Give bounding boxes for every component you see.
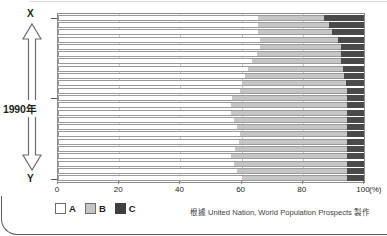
x-axis-tick-mark	[179, 181, 180, 184]
bar-segment-a	[58, 139, 239, 145]
bar-segment-c	[347, 153, 364, 159]
bar-segment-a	[58, 22, 258, 28]
bar-segment-c	[347, 161, 364, 167]
bar-segment-b	[231, 110, 347, 116]
bar-segment-a	[58, 80, 242, 86]
bar-row	[58, 58, 364, 64]
bar-segment-b	[257, 51, 341, 57]
bar-segment-a	[58, 15, 258, 21]
bar-segment-c	[347, 175, 364, 181]
bar-row	[58, 66, 364, 72]
axis-top-label: X	[27, 8, 34, 19]
bar-row	[58, 131, 364, 137]
bar-segment-a	[58, 146, 235, 152]
stacked-bar-chart-plot-area	[57, 13, 365, 183]
bar-segment-c	[332, 29, 364, 35]
bar-row	[58, 161, 364, 167]
x-axis-tick-label: 20	[114, 185, 123, 194]
bar-segment-c	[347, 88, 364, 94]
bar-row	[58, 51, 364, 57]
bar-row	[58, 95, 364, 101]
bar-segment-b	[258, 22, 328, 28]
bar-segment-c	[347, 124, 364, 130]
bar-segment-a	[58, 95, 232, 101]
axis-bottom-label: Y	[27, 173, 34, 184]
bar-segment-b	[242, 175, 348, 181]
bar-segment-b	[258, 15, 324, 21]
bar-segment-a	[58, 175, 242, 181]
bar-segment-b	[260, 44, 341, 50]
bar-segment-c	[347, 131, 364, 137]
bar-rows	[58, 14, 364, 182]
bar-segment-b	[234, 117, 347, 123]
x-axis-tick-mark	[241, 181, 242, 184]
bar-segment-c	[347, 95, 364, 101]
bar-segment-c	[346, 80, 364, 86]
double-headed-vertical-arrow-icon	[20, 22, 44, 172]
bar-segment-a	[58, 51, 257, 57]
bar-segment-b	[237, 168, 347, 174]
bar-segment-c	[347, 146, 364, 152]
bar-segment-b	[234, 161, 347, 167]
bar-segment-b	[231, 153, 347, 159]
bar-segment-c	[341, 44, 364, 50]
bar-segment-b	[240, 131, 347, 137]
x-axis-tick-label: 100	[356, 185, 369, 194]
bar-segment-b	[252, 58, 341, 64]
bar-segment-a	[58, 66, 248, 72]
bar-segment-c	[347, 102, 364, 108]
bar-segment-b	[258, 29, 331, 35]
x-axis-tick-label: 40	[175, 185, 184, 194]
bar-row	[58, 139, 364, 145]
bar-segment-c	[347, 168, 364, 174]
bar-row	[58, 168, 364, 174]
bar-row	[58, 37, 364, 43]
bar-segment-b	[231, 102, 347, 108]
bar-segment-b	[240, 88, 347, 94]
bar-segment-b	[232, 95, 347, 101]
bar-row	[58, 117, 364, 123]
bar-row	[58, 124, 364, 130]
bar-row	[58, 80, 364, 86]
bar-segment-a	[58, 161, 234, 167]
bar-row	[58, 44, 364, 50]
x-axis-tick-label: 60	[236, 185, 245, 194]
bar-segment-a	[58, 102, 231, 108]
x-axis-tick-mark	[57, 181, 58, 184]
bar-row	[58, 73, 364, 79]
bar-segment-b	[245, 73, 344, 79]
year-label: 1990年	[2, 100, 36, 117]
bar-segment-b	[242, 80, 346, 86]
bar-segment-c	[347, 117, 364, 123]
page-frame-corner	[1, 196, 387, 235]
bar-segment-c	[338, 37, 364, 43]
bar-segment-c	[341, 58, 364, 64]
bar-row	[58, 146, 364, 152]
bar-row	[58, 175, 364, 181]
bar-segment-a	[58, 29, 258, 35]
top-divider	[30, 1, 387, 2]
bar-row	[58, 110, 364, 116]
bar-segment-b	[248, 66, 343, 72]
vertical-axis-annotation: X 1990年 Y	[0, 8, 57, 188]
bar-segment-c	[341, 51, 364, 57]
x-axis-unit-label: (%)	[369, 185, 381, 194]
x-axis-tick-label: 80	[297, 185, 306, 194]
bar-segment-a	[58, 168, 237, 174]
x-axis-tick-mark	[302, 181, 303, 184]
bar-row	[58, 153, 364, 159]
bar-segment-a	[58, 88, 240, 94]
bar-segment-a	[58, 117, 234, 123]
bar-segment-c	[324, 15, 364, 21]
bar-segment-a	[58, 153, 231, 159]
bar-segment-b	[260, 37, 338, 43]
bar-segment-a	[58, 37, 260, 43]
bar-row	[58, 15, 364, 21]
bar-segment-c	[343, 66, 364, 72]
bar-segment-c	[347, 110, 364, 116]
bar-row	[58, 102, 364, 108]
bar-segment-a	[58, 110, 231, 116]
bar-segment-c	[347, 139, 364, 145]
bar-segment-b	[237, 124, 347, 130]
bar-segment-c	[344, 73, 364, 79]
